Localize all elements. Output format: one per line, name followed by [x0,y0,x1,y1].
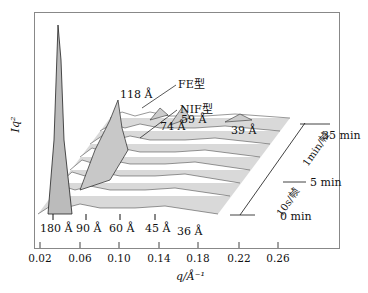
peak-59: 59 Å [181,113,206,126]
peak-39: 39 Å [231,124,256,137]
base-90: 90 Å [76,222,101,235]
x-tick: 0.02 [28,252,51,264]
x-tick: 0.10 [107,252,130,264]
base-180: 180 Å [40,222,72,235]
time-5: 5 min [310,176,342,189]
x-tick: 0.22 [227,252,250,264]
peak-118: 118 Å [120,88,152,101]
y-axis-label: Iq² [9,117,22,133]
x-tick: 0.14 [147,252,170,264]
x-tick: 0.26 [266,252,289,264]
fe-label: FE型 [178,75,205,91]
base-60: 60 Å [109,222,134,235]
x-tick: 0.06 [68,252,91,264]
x-tick: 0.18 [186,252,209,264]
base-45: 45 Å [145,222,170,235]
x-axis-label: q/Å⁻¹ [176,270,205,283]
base-36: 36 Å [177,225,202,238]
